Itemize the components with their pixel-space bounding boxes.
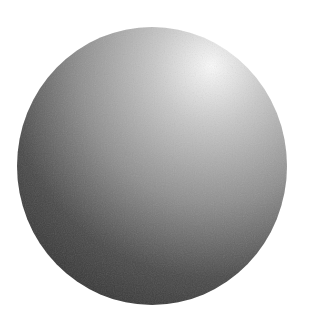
sphere-texture-grain	[17, 27, 287, 305]
sphere-scene	[0, 0, 309, 334]
